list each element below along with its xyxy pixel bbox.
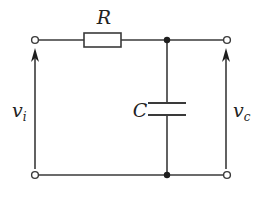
rc-circuit-diagram: R C vi vc: [0, 0, 256, 197]
terminal-output-top: [224, 37, 231, 44]
terminal-input-top: [32, 37, 39, 44]
input-voltage-label: vi: [12, 99, 27, 124]
output-voltage-label: vc: [233, 99, 251, 124]
resistor-label: R: [96, 6, 111, 28]
capacitor-label: C: [133, 99, 148, 121]
junction-bottom: [164, 172, 170, 178]
terminal-output-bottom: [224, 172, 231, 179]
junction-top: [164, 37, 170, 43]
resistor: [84, 33, 121, 47]
terminal-input-bottom: [32, 172, 39, 179]
